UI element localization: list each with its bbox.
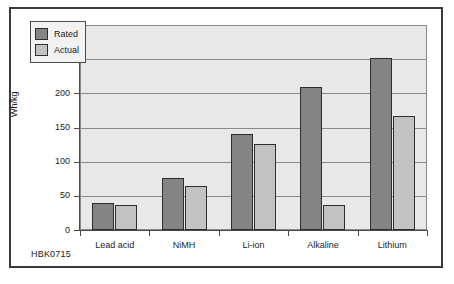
x-axis-tick-mark (80, 230, 81, 236)
x-axis-category-label: Alkaline (307, 240, 339, 250)
bars-layer (80, 25, 427, 230)
x-axis-line (80, 230, 428, 231)
x-axis-tick-mark (149, 230, 150, 236)
legend-item-label: Rated (54, 30, 78, 39)
legend-swatch-icon (35, 28, 48, 40)
legend-item: Actual (35, 42, 79, 58)
figure-caption: HBK0715 (31, 249, 71, 259)
bar (254, 144, 276, 230)
y-axis-title: Wh/kg (9, 91, 19, 117)
x-axis-category-label: NiMH (173, 240, 196, 250)
x-axis-tick-mark (427, 230, 428, 236)
y-axis-tick-label: 150 (44, 123, 70, 132)
legend-swatch-icon (35, 44, 48, 56)
x-axis-tick-mark (358, 230, 359, 236)
x-axis-tick-mark (219, 230, 220, 236)
legend-item-label: Actual (54, 46, 79, 55)
y-axis-tick-label: 0 (44, 226, 70, 235)
y-axis-tick-label: 50 (44, 191, 70, 200)
x-axis-category-label: Li-ion (242, 240, 264, 250)
figure-frame: 050100150200250300 Wh/kg Lead acidNiMHLi… (9, 7, 443, 268)
x-axis-tick-mark (288, 230, 289, 236)
bar (300, 87, 322, 230)
chart-legend: Rated Actual (30, 21, 86, 63)
bar (115, 205, 137, 230)
bar (92, 203, 114, 230)
legend-item: Rated (35, 26, 79, 42)
bar (370, 58, 392, 230)
bar (231, 134, 253, 230)
bar (323, 205, 345, 230)
bar (185, 186, 207, 230)
x-axis-category-label: Lead acid (95, 240, 134, 250)
bar-chart: 050100150200250300 Wh/kg Lead acidNiMHLi… (11, 9, 441, 266)
bar (393, 116, 415, 230)
bar (162, 178, 184, 230)
y-axis-tick-label: 200 (44, 89, 70, 98)
x-axis-category-label: Lithium (378, 240, 407, 250)
y-axis-tick-label: 100 (44, 157, 70, 166)
